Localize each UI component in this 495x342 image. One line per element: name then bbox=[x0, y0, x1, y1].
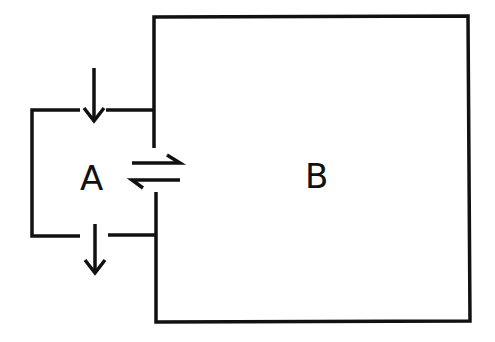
inflow-arrow-icon bbox=[84, 68, 104, 121]
compartment-b-label: B bbox=[305, 156, 328, 196]
compartment-a-top-edge bbox=[32, 110, 80, 236]
equilibrium-arrows-icon bbox=[132, 155, 180, 188]
diagram-canvas: A B bbox=[0, 0, 495, 342]
outflow-arrow-icon bbox=[85, 224, 105, 273]
compartment-a-label: A bbox=[80, 158, 103, 198]
